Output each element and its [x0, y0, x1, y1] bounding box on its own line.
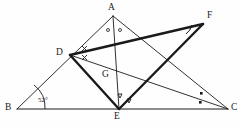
side-AB: [17, 16, 113, 109]
angle-mark-C-upper: [200, 92, 203, 95]
angle-mark-A-left: [107, 29, 110, 32]
angle-mark-A-right: [119, 29, 122, 32]
vertex-label-D: D: [56, 48, 63, 58]
angle-mark-D-upper: [82, 46, 87, 51]
vertex-label-G: G: [102, 70, 109, 80]
vertex-label-A: A: [108, 3, 115, 13]
segment-DF: [70, 24, 203, 55]
geometry-canvas: [0, 0, 241, 126]
angle-label-B: 52°: [38, 97, 48, 104]
vertex-label-B: B: [5, 103, 11, 113]
angle-mark-D-lower: [82, 55, 87, 60]
geometry-diagram: A B C D E F G 52°: [0, 0, 241, 126]
side-AC: [113, 16, 228, 109]
vertex-label-F: F: [207, 11, 212, 21]
vertex-label-C: C: [231, 103, 237, 113]
angle-mark-C-lower: [199, 101, 202, 104]
vertex-label-E: E: [114, 112, 120, 122]
